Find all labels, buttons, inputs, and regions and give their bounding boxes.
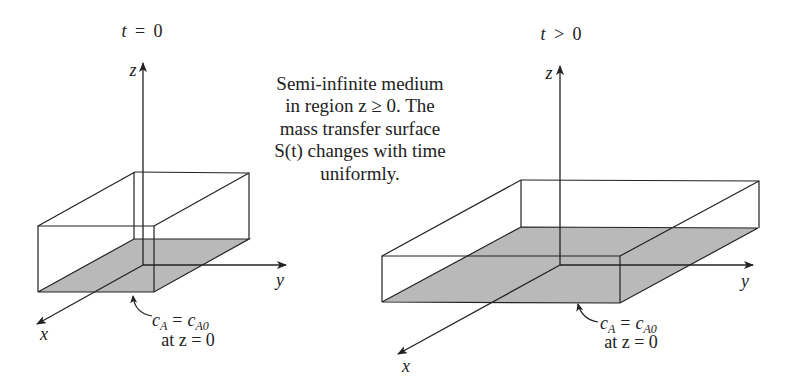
y-axis-label-later: y xyxy=(739,271,749,291)
pointer-arrow-initial xyxy=(133,296,152,316)
boundary-condition-later: at z = 0 xyxy=(604,332,658,352)
pointer-arrow-later xyxy=(578,304,598,322)
description-line-1: Semi-infinite medium xyxy=(276,73,444,94)
x-axis-label-later: x xyxy=(401,356,410,376)
description-line-5: uniformly. xyxy=(320,163,400,184)
boundary-condition-initial: at z = 0 xyxy=(161,330,215,350)
panel-initial: t = 0 z y x cA=cA0 at z = 0 xyxy=(37,21,286,350)
time-rel: > xyxy=(554,24,564,44)
description-line-2: in region z ≥ 0. The xyxy=(285,95,434,116)
time-var: t xyxy=(121,21,127,41)
description-text: Semi-infinite medium in region z ≥ 0. Th… xyxy=(274,73,446,184)
description-line-4: S(t) changes with time xyxy=(274,140,446,162)
time-var: t xyxy=(540,24,546,44)
time-label-initial: t = 0 xyxy=(121,21,162,41)
y-axis-label-initial: y xyxy=(274,270,284,290)
z-axis-label-initial: z xyxy=(128,60,136,80)
z-axis-label-later: z xyxy=(544,63,552,83)
time-label-later: t > 0 xyxy=(540,24,581,44)
x-axis-label-initial: x xyxy=(39,324,48,344)
time-rel: = xyxy=(135,21,145,41)
time-val: 0 xyxy=(154,21,163,41)
diagram-canvas: t = 0 z y x cA=cA0 at z = 0 Semi-infinit… xyxy=(0,0,798,384)
time-val: 0 xyxy=(573,24,582,44)
description-line-3: mass transfer surface xyxy=(280,118,440,139)
